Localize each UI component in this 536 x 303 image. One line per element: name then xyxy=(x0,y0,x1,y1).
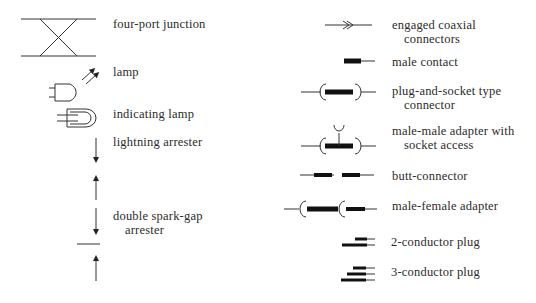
two-conductor-plug-icon xyxy=(342,239,375,245)
label-male-male-adapter: male-male adapter with socket access xyxy=(392,124,514,152)
label-line-1: male-male adapter with xyxy=(392,124,514,138)
engaged-coaxial-connectors-icon xyxy=(325,21,372,29)
label-line-2: arrester xyxy=(113,223,203,237)
plug-and-socket-connector-icon xyxy=(301,84,376,100)
label-lamp: lamp xyxy=(113,65,139,79)
label-three-conductor-plug: 3-conductor plug xyxy=(391,265,480,279)
label-two-conductor-plug: 2-conductor plug xyxy=(391,235,480,249)
label-engaged-coaxial-connectors: engaged coaxial connectors xyxy=(392,18,476,46)
label-male-contact: male contact xyxy=(392,55,458,69)
male-male-adapter-icon xyxy=(301,125,376,154)
label-line-2: connector xyxy=(392,98,501,112)
three-conductor-plug-icon xyxy=(341,268,375,280)
male-female-adapter-icon xyxy=(284,201,377,217)
label-line-1: engaged coaxial xyxy=(392,18,476,32)
label-indicating-lamp: indicating lamp xyxy=(113,107,194,121)
label-line-1: double spark-gap xyxy=(113,209,203,223)
label-line-2: connectors xyxy=(392,32,476,46)
indicating-lamp-icon xyxy=(57,109,96,127)
symbol-legend: four-port junction lamp indicating lamp … xyxy=(0,0,536,303)
label-line-1: plug-and-socket type xyxy=(392,84,501,98)
label-male-female-adapter: male-female adapter xyxy=(392,199,498,213)
label-double-spark-gap-arrester: double spark-gap arrester xyxy=(113,209,203,237)
label-line-2: socket access xyxy=(392,138,514,152)
label-four-port-junction: four-port junction xyxy=(113,17,206,31)
label-lightning-arrester: lightning arrester xyxy=(113,135,202,149)
lamp-icon xyxy=(49,70,97,101)
label-butt-connector: butt-connector xyxy=(392,169,468,183)
four-port-junction-icon xyxy=(21,19,96,56)
double-spark-gap-arrester-icon xyxy=(77,208,100,281)
label-plug-and-socket-connector: plug-and-socket type connector xyxy=(392,84,501,112)
